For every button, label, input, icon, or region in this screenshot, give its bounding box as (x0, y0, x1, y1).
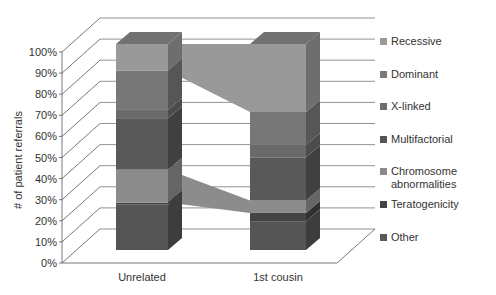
legend-swatch-icon (380, 234, 387, 241)
legend-label: Multifactorial (391, 133, 453, 146)
bar-segment (116, 44, 168, 71)
y-tick-label: 80% (35, 88, 57, 100)
bar-segment (250, 221, 306, 250)
legend-label: Teratogenicity (391, 198, 459, 211)
y-tick-label: 40% (35, 173, 57, 185)
bar-segment (250, 112, 306, 145)
bar-segment (116, 203, 168, 205)
legend-item-x-linked: X-linked (380, 100, 431, 113)
y-tick-label: 20% (35, 215, 57, 227)
bar-unrelated (116, 32, 182, 250)
legend-label: Chromosome abnormalities (391, 165, 460, 191)
legend-swatch-icon (380, 103, 387, 110)
y-tick-label: 100% (29, 46, 57, 58)
legend-swatch-icon (380, 201, 387, 208)
legend-item-dominant: Dominant (380, 68, 438, 81)
legend-label: X-linked (391, 100, 431, 113)
y-tick-label: 70% (35, 109, 57, 121)
bar-segment (116, 110, 168, 118)
bar-segment (116, 118, 168, 170)
legend-item-recessive: Recessive (380, 35, 442, 48)
y-axis-label: # of patient referrals (12, 111, 24, 209)
legend-item-other: Other (380, 231, 419, 244)
legend-item-multifactorial: Multifactorial (380, 133, 453, 146)
legend-swatch-icon (380, 38, 387, 45)
legend-label: Recessive (391, 35, 442, 48)
bar-segment (116, 71, 168, 110)
legend-label: Other (391, 231, 419, 244)
y-tick-label: 0% (41, 257, 57, 269)
bar-segment (250, 201, 306, 213)
y-tick-label: 50% (35, 152, 57, 164)
legend-swatch-icon (380, 168, 387, 175)
y-tick-label: 90% (35, 67, 57, 79)
x-category-label: Unrelated (118, 271, 166, 283)
legend-swatch-icon (380, 71, 387, 78)
bar-segment (250, 213, 306, 221)
x-category-label: 1st cousin (253, 271, 303, 283)
legend-swatch-icon (380, 136, 387, 143)
bar-segment (116, 170, 168, 203)
legend-label: Dominant (391, 68, 438, 81)
bar-segment (250, 145, 306, 157)
legend-item-teratogenicity: Teratogenicity (380, 198, 459, 211)
y-tick-label: 60% (35, 130, 57, 142)
y-tick-label: 10% (35, 236, 57, 248)
bar-segment (116, 205, 168, 250)
bar-segment (250, 44, 306, 112)
y-tick-label: 30% (35, 194, 57, 206)
legend-item-chromosome-abnormalities: Chromosome abnormalities (380, 165, 460, 191)
bar-segment (250, 157, 306, 200)
bar-1st-cousin (250, 32, 320, 250)
